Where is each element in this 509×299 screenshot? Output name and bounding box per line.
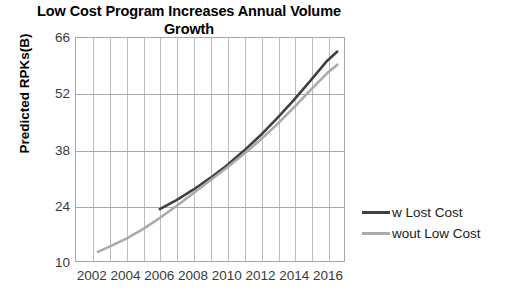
plot-area: [75, 37, 345, 262]
y-axis-tick-label: 66: [28, 30, 70, 45]
legend-item-label: w Lost Cost: [392, 205, 463, 220]
y-axis-tick-label: 52: [28, 86, 70, 101]
x-axis-tick-label: 2016: [304, 268, 352, 283]
y-axis-tick-label: 38: [28, 142, 70, 157]
chart-container: Low Cost Program Increases Annual Volume…: [0, 0, 509, 299]
legend-color-swatch: [362, 232, 390, 235]
chart-title-line-1: Low Cost Program Increases Annual Volume: [24, 3, 354, 21]
y-axis-tick-label: 10: [28, 255, 70, 270]
y-axis-tick-labels: 1024385266: [22, 0, 70, 299]
chart-title: Low Cost Program Increases Annual Volume…: [24, 3, 354, 38]
legend-color-swatch: [362, 211, 390, 214]
chart-title-line-2: Growth: [24, 21, 354, 39]
legend-item-label: wout Low Cost: [392, 226, 481, 241]
series-line: [160, 52, 338, 210]
y-axis-tick-label: 24: [28, 198, 70, 213]
chart-legend: w Lost Costwout Low Cost: [362, 202, 507, 244]
legend-item[interactable]: wout Low Cost: [362, 223, 507, 244]
series-lines: [76, 38, 344, 261]
legend-item[interactable]: w Lost Cost: [362, 202, 507, 223]
